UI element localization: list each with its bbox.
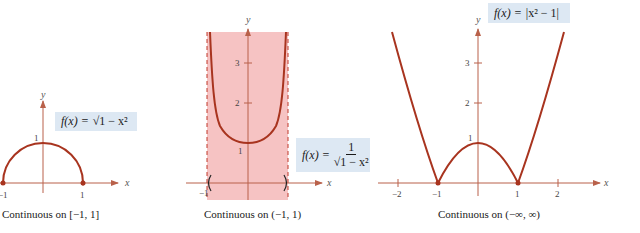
- formula-numerator: 1: [346, 141, 356, 155]
- x-axis-label: x: [326, 177, 332, 188]
- x-tick-neg1: −1: [0, 190, 8, 200]
- y-tick-1: 1: [238, 146, 243, 156]
- y-tick-1: 1: [34, 133, 39, 143]
- graph2-formula: f(x) = 1 √1 − x²: [296, 138, 370, 172]
- x-axis-label: x: [124, 177, 130, 188]
- x-tick-1: 1: [515, 189, 520, 199]
- x-tick-neg1: −1: [199, 188, 209, 198]
- formula-lhs: f(x) =: [494, 6, 522, 21]
- formula-lhs: f(x) =: [302, 148, 330, 163]
- graph2-caption: Continuous on (−1, 1): [204, 208, 301, 220]
- corner-point-right: [516, 181, 521, 186]
- y-tick-1: 1: [468, 133, 473, 143]
- graph3: x y −2 −1 1 2 3 2 1: [378, 14, 609, 199]
- x-tick-2: 2: [555, 189, 560, 199]
- formula-denominator: √1 − x²: [334, 155, 369, 169]
- formula-lhs: f(x) =: [61, 114, 89, 129]
- graph1-caption: Continuous on [−1, 1]: [2, 208, 99, 220]
- y-axis-label: y: [40, 89, 46, 100]
- formula-rhs: √1 − x²: [93, 114, 128, 129]
- y-tick-2: 2: [235, 98, 240, 108]
- corner-point-left: [436, 181, 441, 186]
- y-axis-label: y: [245, 14, 251, 25]
- x-tick-neg1: −1: [432, 189, 442, 199]
- x-tick-1: 1: [80, 190, 85, 200]
- closed-endpoint-right: [81, 181, 86, 186]
- graph3-caption: Continuous on (−∞, ∞): [438, 208, 540, 220]
- x-tick-neg2: −2: [392, 189, 402, 199]
- graph1: x y −1 1 1: [0, 89, 130, 200]
- y-tick-3: 3: [465, 58, 470, 68]
- closed-endpoint-left: [1, 181, 6, 186]
- y-axis-label: y: [475, 14, 481, 25]
- graph1-formula: f(x) = √1 − x²: [55, 112, 137, 131]
- formula-rhs: |x² − 1|: [526, 6, 559, 21]
- formula-fraction: 1 √1 − x²: [334, 141, 369, 169]
- graph3-formula: f(x) = |x² − 1|: [488, 3, 570, 23]
- x-axis-label: x: [603, 177, 609, 188]
- y-tick-3: 3: [235, 58, 240, 68]
- y-tick-2: 2: [465, 98, 470, 108]
- graph2: x y 3 2 1 −1: [186, 14, 332, 200]
